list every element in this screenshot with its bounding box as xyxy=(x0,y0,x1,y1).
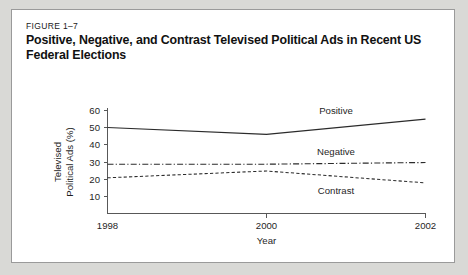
x-tick-label-1998: 1998 xyxy=(97,220,118,231)
x-tick-label-2000: 2000 xyxy=(256,220,277,231)
figure-container: FIGURE 1–7 Positive, Negative, and Contr… xyxy=(11,9,455,263)
series-line-negative xyxy=(108,163,426,165)
y-tick-label-40: 40 xyxy=(89,139,100,150)
y-axis-title-line1: Televised xyxy=(52,142,63,182)
series-label-contrast: Contrast xyxy=(318,185,355,196)
line-chart-svg: 60 50 40 30 20 10 1998 2000 2002 Year Te… xyxy=(12,10,456,264)
series-line-positive xyxy=(108,119,426,134)
chart-plot-area: 60 50 40 30 20 10 1998 2000 2002 Year Te… xyxy=(12,10,456,264)
x-axis-title: Year xyxy=(257,235,277,246)
series-label-negative: Negative xyxy=(317,146,355,157)
y-tick-label-20: 20 xyxy=(89,174,100,185)
y-tick-label-50: 50 xyxy=(89,122,100,133)
y-tick-label-60: 60 xyxy=(89,105,100,116)
x-tick-label-2002: 2002 xyxy=(415,220,436,231)
series-label-positive: Positive xyxy=(319,105,353,116)
y-tick-label-10: 10 xyxy=(89,191,100,202)
series-line-contrast xyxy=(108,171,426,183)
y-tick-label-30: 30 xyxy=(89,157,100,168)
y-axis-title-line2: Political Ads (%) xyxy=(64,127,75,196)
